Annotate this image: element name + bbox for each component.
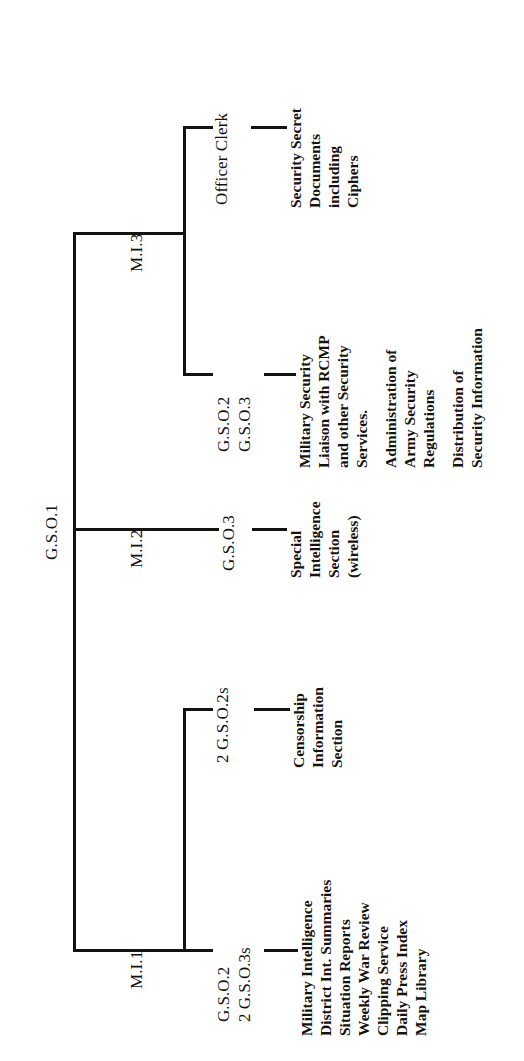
connector-mi3-officer-clerk bbox=[183, 126, 213, 129]
node-code-line: 2 G.S.O.3s bbox=[235, 947, 255, 1022]
connector-mi1-spine bbox=[183, 708, 186, 952]
branch-label-mi1: M.I.1 bbox=[127, 951, 147, 989]
connector-officer-clerk-duties bbox=[251, 126, 287, 129]
node-code-officer-clerk: Officer Clerk bbox=[212, 113, 232, 205]
connector-mi1-censorship bbox=[183, 708, 213, 711]
duty-line: (wireless) bbox=[344, 515, 362, 578]
duty-line: and other Security bbox=[334, 345, 352, 468]
duty-line: Military Intelligence bbox=[298, 900, 316, 1036]
connector-mi1-intelligence bbox=[183, 949, 213, 952]
duty-line: Censorship bbox=[290, 693, 308, 768]
node-code-line: G.S.O.3 bbox=[235, 397, 255, 452]
branch-label-mi3: M.I.3 bbox=[127, 234, 147, 272]
root-label-gso1: G.S.O.1 bbox=[42, 504, 62, 560]
node-code-mi2-gso3: G.S.O.3 bbox=[219, 515, 239, 571]
duty-line: Section bbox=[328, 720, 346, 768]
connector-gso3-duties bbox=[252, 528, 287, 531]
duty-line: District Int. Summaries bbox=[317, 880, 335, 1036]
duty-line: Intelligence bbox=[306, 501, 324, 578]
duty-line: including bbox=[325, 146, 343, 208]
branch-label-mi2: M.I.2 bbox=[127, 530, 147, 568]
connector-security-duties bbox=[264, 373, 296, 376]
node-code-line: G.S.O.2 bbox=[214, 397, 234, 452]
duty-line: Regulations bbox=[420, 390, 438, 468]
duty-line: Security Information bbox=[468, 328, 486, 468]
connector-censorship-duties bbox=[254, 708, 290, 711]
connector-intelligence-duties bbox=[264, 949, 298, 952]
duty-line: Documents bbox=[306, 134, 324, 208]
connector-root-spine bbox=[73, 232, 76, 952]
duty-line: Situation Reports bbox=[336, 919, 354, 1036]
duty-line: Ciphers bbox=[344, 155, 362, 208]
duty-line: Security Secret bbox=[287, 108, 305, 208]
duty-line: Clipping Service bbox=[374, 926, 392, 1036]
duty-line: Section bbox=[325, 530, 343, 578]
connector-mi3-security bbox=[183, 373, 213, 376]
duty-line: Information bbox=[309, 687, 327, 768]
duty-line: Weekly War Review bbox=[355, 902, 373, 1036]
duty-line: Liaison with RCMP bbox=[315, 335, 333, 468]
duty-line: Special bbox=[287, 531, 305, 578]
duty-line: Administration of bbox=[382, 350, 400, 468]
organization-chart: G.S.O.1 M.I.3 M.I.2 M.I.1 Officer Clerk … bbox=[0, 0, 524, 1061]
connector-mi3-spine bbox=[183, 126, 186, 376]
duty-line: Army Security bbox=[401, 370, 419, 468]
duty-line: Military Security bbox=[296, 354, 314, 468]
duty-line: Daily Press Index bbox=[393, 920, 411, 1036]
duty-line: Distribution of bbox=[449, 370, 467, 468]
node-code-line: G.S.O.2 bbox=[214, 967, 234, 1022]
duty-line: Map Library bbox=[412, 949, 430, 1036]
duty-line: Services. bbox=[353, 410, 371, 468]
connector-mi2-gso3 bbox=[186, 528, 219, 531]
node-code-mi1-censorship: 2 G.S.O.2s bbox=[213, 687, 233, 763]
